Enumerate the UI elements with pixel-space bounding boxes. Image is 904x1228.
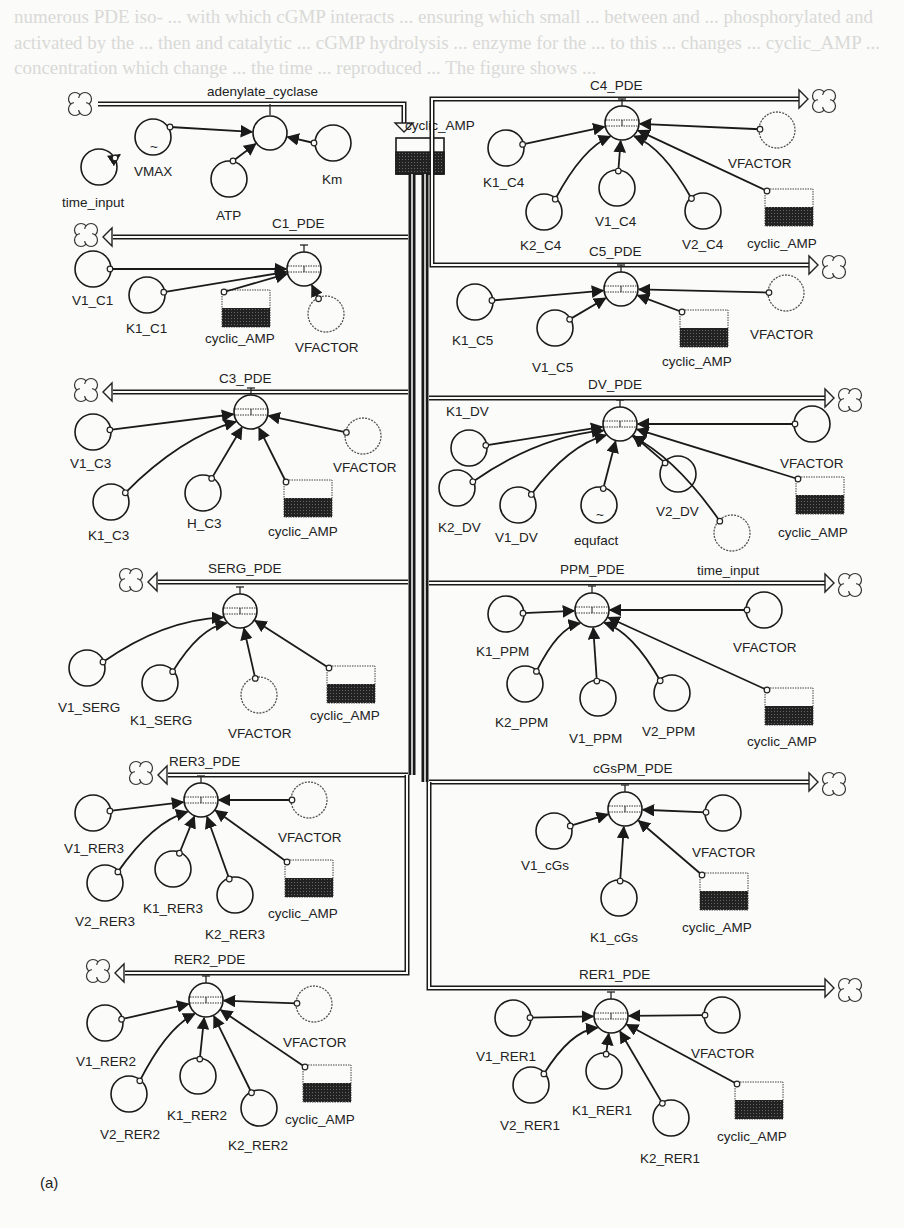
converter-label-h-c3: H_C3: [187, 516, 222, 531]
c4-pde-valve[interactable]: [605, 99, 639, 140]
vfactor-converter[interactable]: [705, 795, 741, 831]
k1-cgs-converter[interactable]: [601, 880, 637, 916]
rer1-pde-valve[interactable]: [594, 992, 628, 1033]
time-input-converter[interactable]: [81, 149, 117, 185]
c5-pde-valve[interactable]: [604, 265, 638, 306]
converter-label-k2-rer1: K2_RER1: [640, 1151, 700, 1166]
k1-rer3-converter[interactable]: [155, 851, 191, 887]
svg-text:~: ~: [150, 139, 158, 154]
v1-rer1-converter[interactable]: [495, 1000, 531, 1036]
k2-rer2-converter[interactable]: [241, 1090, 277, 1126]
sink-cloud-icon: [75, 224, 98, 247]
vfactor-converter[interactable]: [241, 677, 277, 713]
converter-label-k1-rer3: K1_RER3: [143, 901, 203, 916]
k1-dv-converter[interactable]: [451, 430, 487, 466]
converter-label-k1-serg: K1_SERG: [130, 713, 192, 728]
flow-arrowhead-icon: [158, 766, 167, 784]
v1-serg-converter[interactable]: [69, 650, 105, 686]
vfactor-converter[interactable]: [345, 418, 381, 454]
cyclic-amp-stock-ghost[interactable]: [222, 290, 270, 327]
cyclic-amp-stock-ghost[interactable]: [765, 688, 813, 725]
converter-label-v1-c5: V1_C5: [532, 360, 573, 375]
dv-pde-valve[interactable]: [603, 400, 637, 441]
flow-label-rer2-pde: RER2_PDE: [174, 952, 245, 967]
km-converter[interactable]: [315, 125, 351, 161]
v1-ppm-converter[interactable]: [580, 680, 616, 716]
figure-label: (a): [40, 1174, 58, 1191]
stock-copy-label-cyclic-amp: cyclic_AMP: [205, 331, 275, 346]
k2-dv-converter[interactable]: [439, 470, 475, 506]
converter-label-atp: ATP: [216, 208, 241, 223]
atp-converter[interactable]: [211, 161, 247, 197]
ppm-pde-valve[interactable]: [575, 586, 609, 627]
converter-label-v1-cgs: V1_cGs: [521, 858, 569, 873]
cyclic-amp-stock-ghost[interactable]: [303, 1065, 351, 1102]
flow-arrowhead-icon: [103, 383, 112, 401]
cyclic-amp-stock-ghost[interactable]: [765, 189, 813, 226]
k1-ppm-converter[interactable]: [488, 596, 524, 632]
vfactor-converter[interactable]: [296, 986, 332, 1022]
vfactor-converter[interactable]: [308, 296, 344, 332]
k1-c3-converter[interactable]: [93, 484, 129, 520]
converter-label-k1-c3: K1_C3: [88, 528, 129, 543]
flow-arrowhead-icon: [825, 979, 834, 997]
k1-c1-converter[interactable]: [129, 277, 165, 313]
converter-label-k1-rer1: K1_RER1: [572, 1103, 632, 1118]
serg-pde-valve[interactable]: [223, 587, 257, 628]
stock-copy-label-cyclic-amp: cyclic_AMP: [310, 708, 380, 723]
k1-c5-converter[interactable]: [457, 284, 493, 320]
converter-label-k1-c1: K1_C1: [126, 321, 167, 336]
converter-label-v1-rer2: V1_RER2: [76, 1054, 136, 1069]
vfactor-converter[interactable]: [704, 997, 740, 1033]
c1-pde-valve[interactable]: [287, 245, 321, 286]
flow-label-cgspm-pde: cGsPM_PDE: [593, 761, 673, 776]
v1-rer2-converter[interactable]: [87, 1005, 123, 1041]
converter-label-v1-c4: V1_C4: [595, 214, 637, 229]
cyclic-amp-stock[interactable]: [396, 138, 444, 174]
cgspm-pde-valve[interactable]: [608, 785, 642, 826]
v1-cgs-converter[interactable]: [536, 813, 572, 849]
cyclic-amp-stock-ghost[interactable]: [327, 666, 375, 703]
cyclic-amp-stock-ghost[interactable]: [735, 1082, 783, 1119]
flow-arrowhead-icon: [799, 90, 808, 108]
cyclic-amp-stock-ghost[interactable]: [700, 873, 748, 910]
k1-rer1-converter[interactable]: [586, 1053, 622, 1089]
rer2-pde-valve[interactable]: [189, 976, 223, 1017]
k1-c4-converter[interactable]: [488, 130, 524, 166]
flow-arrowhead-icon: [115, 964, 124, 982]
vfactor-converter[interactable]: [291, 782, 327, 818]
k2-rer3-converter[interactable]: [217, 877, 253, 913]
stock-copy-label-cyclic-amp: cyclic_AMP: [662, 354, 732, 369]
converter-label-v2-dv: V2_DV: [656, 504, 699, 519]
vfactor-converter[interactable]: [768, 275, 804, 311]
v1-c3-converter[interactable]: [75, 414, 111, 450]
v1-c5-converter[interactable]: [537, 310, 573, 346]
cyclic-amp-stock-ghost[interactable]: [796, 477, 844, 514]
v1-c1-converter[interactable]: [75, 251, 111, 287]
converter-label-vfactor: VFACTOR: [733, 640, 797, 655]
vfactor-converter[interactable]: [759, 112, 795, 148]
rer3-pde-valve[interactable]: [184, 776, 218, 817]
vfactor-converter[interactable]: [746, 592, 782, 628]
sink-cloud-icon: [823, 773, 846, 796]
converter-label-k1-ppm: K1_PPM: [476, 644, 529, 659]
cyclic-amp-stock-ghost[interactable]: [285, 860, 333, 897]
flow-arrowhead-icon: [809, 773, 818, 791]
converter-label-time-input: time_input: [62, 195, 125, 210]
sink-cloud-icon: [87, 960, 110, 983]
converter-label-k1-dv: K1_DV: [446, 404, 489, 419]
v1-rer3-converter[interactable]: [75, 795, 111, 831]
converter-label-v2-rer2: V2_RER2: [100, 1127, 160, 1142]
k1-rer2-converter[interactable]: [180, 1058, 216, 1094]
stock-copy-label-cyclic-amp: cyclic_AMP: [747, 236, 817, 251]
v1-c4-converter[interactable]: [599, 170, 635, 206]
vfactor-converter[interactable]: [794, 406, 830, 442]
converter-label-k2-dv: K2_DV: [438, 520, 481, 535]
cyclic-amp-stock-ghost[interactable]: [284, 480, 332, 517]
h-c3-converter[interactable]: [185, 475, 221, 511]
cyclic-amp-stock-ghost[interactable]: [680, 310, 728, 347]
k2-rer1-converter[interactable]: [653, 1100, 689, 1136]
stock-copy-label-cyclic-amp: cyclic_AMP: [268, 524, 338, 539]
converter-label-k1-c4: K1_C4: [483, 175, 525, 190]
adenylate-cyclase-valve[interactable]: [253, 116, 287, 150]
